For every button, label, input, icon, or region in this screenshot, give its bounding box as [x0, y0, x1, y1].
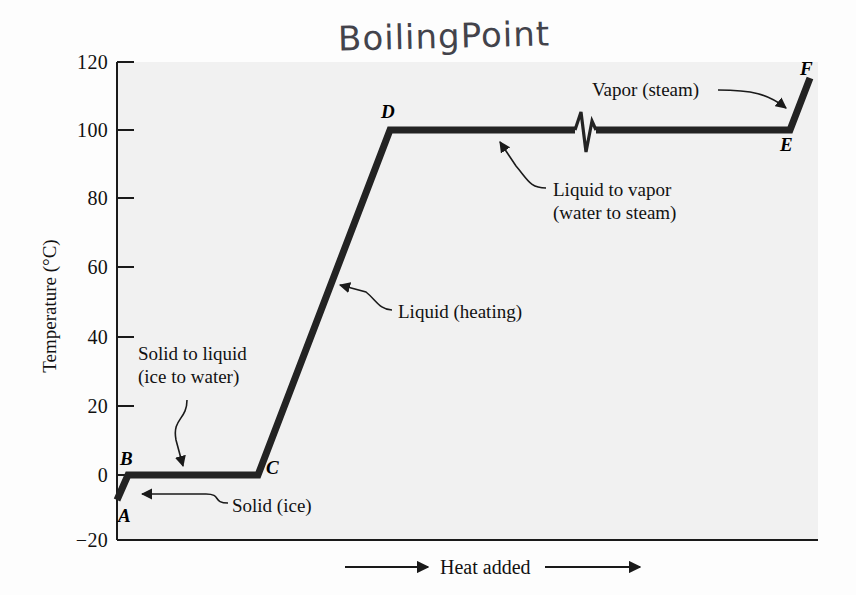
annotation-liquid-heating: Liquid (heating) [398, 300, 522, 323]
annotation-vapor-steam-line1: Vapor (steam) [592, 79, 699, 100]
y-tick-label-40: 40 [58, 326, 108, 349]
y-tick-label-0: 0 [58, 464, 108, 487]
point-label-C: C [266, 457, 279, 479]
y-axis-title: Temperature (°C) [39, 196, 61, 416]
annotation-vapor-steam: Vapor (steam) [592, 78, 699, 101]
point-label-F: F [800, 58, 813, 80]
y-tick-label-120: 120 [58, 51, 108, 74]
point-label-A: A [118, 505, 131, 527]
y-tick-label-minus20: −20 [46, 529, 108, 552]
annotation-liquid-heating-line1: Liquid (heating) [398, 301, 522, 322]
point-label-D: D [381, 101, 395, 123]
y-tick-label-20: 20 [58, 395, 108, 418]
x-axis-title: Heat added [440, 556, 531, 579]
handwritten-boiling-point-note: BoilingPoint [338, 13, 551, 58]
annotation-solid-ice: Solid (ice) [232, 494, 312, 517]
annotation-liquid-to-vapor-line2: (water to steam) [553, 201, 676, 224]
y-tick-label-60: 60 [58, 256, 108, 279]
annotation-liquid-to-vapor: Liquid to vapor (water to steam) [553, 178, 676, 224]
point-label-E: E [780, 134, 793, 156]
y-tick-label-100: 100 [58, 119, 108, 142]
annotation-solid-to-liquid: Solid to liquid (ice to water) [138, 342, 247, 388]
annotation-solid-ice-line1: Solid (ice) [232, 495, 312, 516]
annotation-solid-to-liquid-line2: (ice to water) [138, 365, 247, 388]
annotation-liquid-to-vapor-line1: Liquid to vapor [553, 179, 671, 200]
heating-curve-figure: 120 100 80 60 40 20 0 −20 Temperature (°… [0, 0, 856, 595]
point-label-B: B [120, 448, 133, 470]
y-tick-label-80: 80 [58, 187, 108, 210]
annotation-solid-to-liquid-line1: Solid to liquid [138, 343, 247, 364]
